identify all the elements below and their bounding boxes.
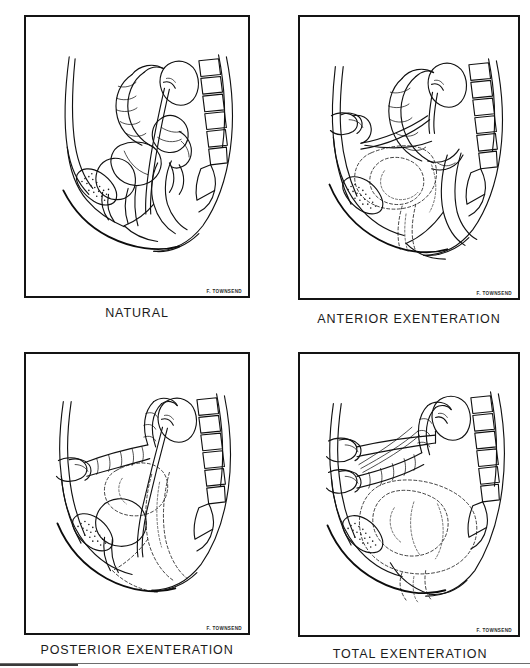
- footer-rule-accent: [0, 664, 78, 666]
- panel-frame: F. TOWNSEND: [24, 352, 250, 635]
- artist-signature: F. TOWNSEND: [477, 628, 512, 633]
- panel-natural: F. TOWNSEND: [24, 15, 250, 298]
- panel-frame: F. TOWNSEND: [24, 15, 250, 298]
- anatomy-drawing-natural: [26, 17, 248, 296]
- anatomy-drawing-anterior-exenteration: [300, 17, 518, 298]
- panel-posterior-exenteration: F. TOWNSEND: [24, 352, 250, 635]
- panel-caption-posterior-exenteration: POSTERIOR EXENTERATION: [12, 643, 262, 657]
- panel-caption-natural: NATURAL: [24, 306, 250, 320]
- panel-frame: F. TOWNSEND: [298, 352, 520, 637]
- panel-frame: F. TOWNSEND: [298, 15, 520, 300]
- panel-caption-total-exenteration: TOTAL EXENTERATION: [296, 647, 524, 661]
- footer-rule: [0, 663, 530, 664]
- anatomy-drawing-posterior-exenteration: [26, 354, 248, 633]
- artist-signature: F. TOWNSEND: [477, 291, 512, 296]
- panel-total-exenteration: F. TOWNSEND: [298, 352, 520, 637]
- figure-plate: F. TOWNSEND NATURAL: [0, 0, 530, 668]
- panel-caption-anterior-exenteration: ANTERIOR EXENTERATION: [292, 312, 526, 326]
- panel-anterior-exenteration: F. TOWNSEND: [298, 15, 520, 300]
- artist-signature: F. TOWNSEND: [207, 626, 242, 631]
- anatomy-drawing-total-exenteration: [300, 354, 518, 635]
- artist-signature: F. TOWNSEND: [207, 289, 242, 294]
